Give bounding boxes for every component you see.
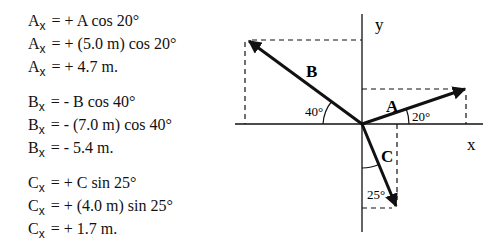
x-axis-label: x xyxy=(467,135,476,154)
vector-b-label: B xyxy=(306,62,317,81)
vector-a-label: A xyxy=(386,97,399,116)
angle-arc-a xyxy=(406,108,409,124)
angle-arc-c xyxy=(362,164,380,168)
angle-label-a: 20° xyxy=(412,109,430,124)
angle-label-c: 25° xyxy=(367,187,385,202)
y-axis-label: y xyxy=(375,15,384,34)
angle-arc-b xyxy=(323,101,332,124)
vector-diagram: y x B A C 40° 20° 25° xyxy=(0,0,498,250)
angle-label-b: 40° xyxy=(305,104,323,119)
vector-c-label: C xyxy=(381,147,393,166)
